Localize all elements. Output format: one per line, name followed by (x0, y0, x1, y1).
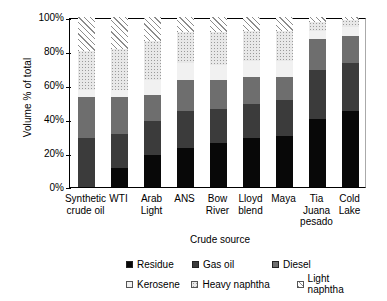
y-tick-mark (66, 19, 71, 20)
bar-segment (309, 17, 326, 22)
bar-segment (111, 90, 128, 97)
legend-label: Residue (137, 259, 174, 270)
bar-segment (276, 17, 293, 31)
y-tick-label: 0% (30, 183, 64, 193)
bar-segment (144, 155, 161, 187)
bar-segment (342, 27, 359, 36)
plot-area (69, 18, 366, 188)
legend-item-gasoil[interactable]: Gas oil (192, 259, 272, 270)
bar-segment (144, 41, 161, 80)
bar-segment (78, 138, 95, 187)
y-tick-mark (66, 188, 71, 189)
bar-segment (309, 39, 326, 70)
legend-item-heavy[interactable]: Heavy naphtha (191, 273, 296, 295)
bar-segment (243, 138, 260, 187)
bar (210, 17, 227, 187)
bar-segment (210, 109, 227, 143)
bar-segment (210, 143, 227, 187)
bar-segment (276, 61, 293, 76)
legend-item-residue[interactable]: Residue (126, 259, 192, 270)
legend-label: Kerosene (137, 279, 180, 290)
bar (78, 17, 95, 187)
y-tick-mark (66, 121, 71, 122)
legend-label: Heavy naphtha (202, 279, 269, 290)
bar-segment (177, 80, 194, 111)
bar (342, 17, 359, 187)
x-tick-label: ColdLake (321, 193, 379, 216)
bar-segment (78, 17, 95, 51)
legend-swatch-heavy-icon (191, 281, 198, 288)
bar (309, 17, 326, 187)
bar-segment (342, 63, 359, 111)
bar-segment (243, 31, 260, 62)
bar-segment (177, 63, 194, 80)
bar-segment (210, 80, 227, 109)
bar-segment (78, 97, 95, 138)
y-tick-label: 60% (30, 81, 64, 91)
bar-segment (276, 31, 293, 62)
bar-segment (111, 49, 128, 90)
legend-swatch-kerosene-icon (126, 281, 133, 288)
bar-segment (276, 100, 293, 136)
bar-segment (243, 104, 260, 138)
legend-row-2: KeroseneHeavy naphthaLight naphtha (126, 273, 366, 295)
y-tick-label: 20% (30, 149, 64, 159)
bar-segment (111, 17, 128, 49)
legend-item-light[interactable]: Light naphtha (297, 273, 366, 295)
legend-swatch-diesel-icon (272, 261, 279, 268)
bar-segment (309, 119, 326, 187)
stacked-bar-chart: Volume % of total 100%80%60%40%20%0% Syn… (0, 0, 387, 301)
y-tick-label: 100% (30, 13, 64, 23)
bar-segment (309, 22, 326, 31)
x-tick-label-line: Light (123, 205, 181, 217)
bar-segment (210, 65, 227, 80)
y-tick-mark (66, 155, 71, 156)
bar-segment (177, 148, 194, 187)
x-tick-label-line: blend (222, 205, 280, 217)
bar-segment (111, 168, 128, 187)
bar-segment (342, 17, 359, 20)
bar (243, 17, 260, 187)
bar-segment (342, 20, 359, 27)
bar (111, 17, 128, 187)
legend-label: Light naphtha (308, 273, 366, 295)
legend-item-diesel[interactable]: Diesel (272, 259, 342, 270)
bar (177, 17, 194, 187)
legend-swatch-gasoil-icon (192, 261, 199, 268)
bar-segment (342, 111, 359, 188)
bar-segment (78, 90, 95, 97)
bar-segment (144, 121, 161, 155)
bar-segment (210, 17, 227, 32)
legend-item-kerosene[interactable]: Kerosene (126, 273, 191, 295)
x-tick-label-line: Lake (321, 205, 379, 217)
bar-segment (243, 61, 260, 76)
bar-segment (78, 51, 95, 90)
bar-segment (276, 77, 293, 101)
bar-segment (243, 77, 260, 104)
bar-segment (210, 32, 227, 64)
legend-swatch-light-icon (297, 281, 304, 288)
bar-segment (243, 17, 260, 31)
bar (276, 17, 293, 187)
bar-segment (309, 31, 326, 40)
bar-segment (177, 32, 194, 63)
bar-segment (177, 17, 194, 32)
x-tick-label-line: crude oil (57, 205, 115, 217)
bar-segment (342, 36, 359, 63)
legend: ResidueGas oilDiesel KeroseneHeavy napht… (126, 259, 366, 298)
y-tick-mark (66, 87, 71, 88)
legend-label: Gas oil (203, 259, 234, 270)
bar-segment (144, 17, 161, 41)
x-tick-label-line: pesado (288, 216, 346, 228)
legend-label: Diesel (283, 259, 311, 270)
bar-segment (276, 136, 293, 187)
y-tick-label: 40% (30, 115, 64, 125)
y-tick-label: 80% (30, 47, 64, 57)
bar-segment (111, 97, 128, 134)
x-tick-label-line: Cold (321, 193, 379, 205)
x-axis-title: Crude source (160, 234, 280, 245)
legend-row-1: ResidueGas oilDiesel (126, 259, 366, 270)
bar-segment (309, 70, 326, 119)
bar-segment (111, 134, 128, 168)
bar-segment (177, 111, 194, 148)
